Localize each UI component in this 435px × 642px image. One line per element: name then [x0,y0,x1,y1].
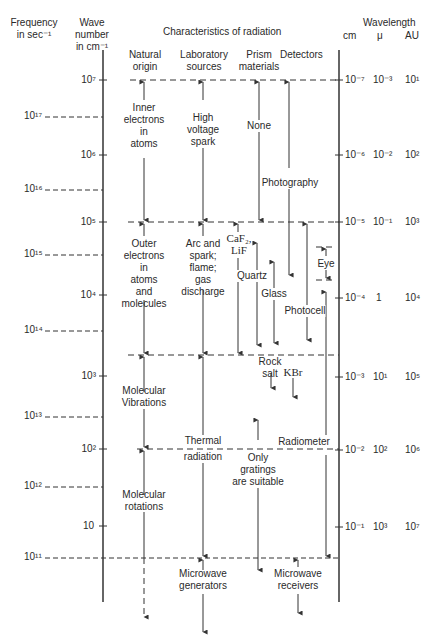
diagram-lines [0,0,435,642]
frequency-axis-title: Frequency in sec⁻¹ [10,17,57,41]
radiometer-label: Radiometer [278,436,330,448]
frequency-tick: 10¹⁶ [24,183,43,195]
wavenumber-tick: 10³ [82,370,96,382]
radiation-label: radiation [184,451,222,463]
glass-label: Glass [261,288,287,300]
inner-electrons-label: Inner electrons in atoms [124,102,165,150]
microwave-generators-label: Microwave generators [179,568,227,592]
arc-spark-label: Arc and spark; flame; gas discharge [181,238,224,298]
photocell-label: Photocell [284,305,325,317]
frequency-tick: 10¹³ [24,410,42,422]
only-gratings-label: Only gratings are suitable [232,452,284,488]
micron-unit-label: μ [377,30,383,42]
frequency-tick: 10¹¹ [24,551,42,563]
high-voltage-spark-label: High voltage spark [187,112,219,148]
wavenumber-tick: 10⁶ [81,149,96,161]
none-label: None [247,120,271,132]
wavenumber-tick: 10² [82,443,96,455]
wavenumber-tick: 10⁷ [81,74,96,86]
au-unit-label: AU [405,30,419,42]
characteristics-title: Characteristics of radiation [163,26,281,38]
rock-salt-label: Rock salt [259,356,282,380]
cm-unit-label: cm [343,30,356,42]
molecular-rotations-label: Molecular rotations [122,489,165,513]
wavenumber-tick: 10⁴ [81,289,96,301]
molecular-vibrations-label: Molecular Vibrations [122,385,166,409]
frequency-tick: 10¹² [24,480,42,492]
photography-label: Photography [262,177,319,189]
wavenumber-axis-title: Wave number in cm⁻¹ [75,17,109,53]
natural-origin-header: Natural origin [129,49,161,73]
quartz-label: Quartz [237,270,267,282]
detectors-header: Detectors [280,49,323,61]
frequency-tick: 10¹⁷ [24,110,42,122]
wavenumber-tick: 10 [83,520,94,532]
outer-electrons-label: Outer electrons in atoms and molecules [121,238,166,310]
thermal-label: Thermal [185,435,222,447]
wavelength-title: Wavelength [363,17,415,29]
frequency-tick: 10¹⁴ [24,324,43,336]
frequency-tick: 10¹⁵ [24,248,43,260]
laboratory-sources-header: Laboratory sources [180,49,228,73]
microwave-receivers-label: Microwave receivers [274,568,322,592]
eye-label: Eye [317,258,334,270]
wavenumber-tick: 10⁵ [81,216,96,228]
caf2-lif-label: CaF₂, LiF [227,232,252,256]
kbr-label: KBr [284,366,303,378]
prism-materials-header: Prism materials [239,49,280,73]
